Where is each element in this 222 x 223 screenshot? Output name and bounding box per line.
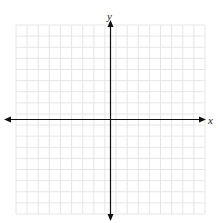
- y-axis-label: y: [106, 10, 112, 22]
- coordinate-plane: y x: [0, 0, 222, 223]
- x-axis-left-arrow-icon: [4, 117, 11, 123]
- x-axis-label: x: [207, 114, 213, 126]
- y-axis-down-arrow-icon: [108, 214, 114, 221]
